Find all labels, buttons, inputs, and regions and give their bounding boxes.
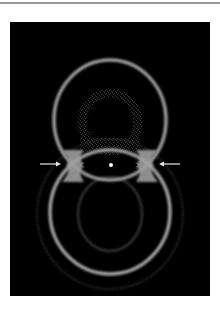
right-arrow-icon [159,162,180,167]
figure-eight-rings-image [0,0,220,319]
center-dot [109,163,113,167]
lower-inner-faint-ring [78,177,142,251]
